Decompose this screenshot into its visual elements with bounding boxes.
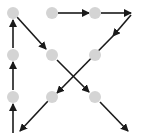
dot-r1c2 — [46, 7, 58, 19]
dot-r2c3 — [89, 49, 101, 61]
dot-r3c2 — [46, 91, 58, 103]
dot-r3c3 — [89, 91, 101, 103]
dot-r1c1 — [7, 7, 19, 19]
dot-r3c1 — [7, 91, 19, 103]
arrow-4 — [57, 36, 113, 93]
arrow-5 — [20, 101, 48, 131]
nine-dots-diagram — [0, 0, 141, 140]
dot-r2c1 — [7, 49, 19, 61]
arrows-group — [13, 13, 131, 133]
arrow-11 — [100, 102, 128, 131]
dot-r1c3 — [89, 7, 101, 19]
arrow-9 — [17, 17, 46, 49]
dot-r2c2 — [46, 49, 58, 61]
arrow-3 — [113, 15, 131, 36]
